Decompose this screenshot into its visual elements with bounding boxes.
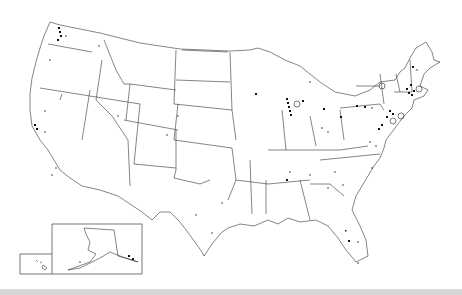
marker xyxy=(334,171,336,173)
marker xyxy=(177,115,179,117)
bottom-band xyxy=(0,289,462,295)
marker xyxy=(410,84,412,86)
marker xyxy=(79,261,81,263)
marker xyxy=(342,184,344,186)
marker xyxy=(348,240,350,242)
marker xyxy=(49,59,51,61)
marker xyxy=(60,35,62,37)
marker xyxy=(98,45,100,47)
marker xyxy=(51,174,53,176)
marker xyxy=(416,69,418,71)
marker xyxy=(413,90,415,92)
marker xyxy=(132,258,134,260)
marker xyxy=(58,27,60,29)
marker xyxy=(357,241,359,243)
marker xyxy=(286,98,288,100)
marker xyxy=(286,179,288,181)
marker xyxy=(323,108,325,110)
marker xyxy=(59,31,61,33)
marker xyxy=(289,171,291,173)
marker xyxy=(255,93,257,95)
marker xyxy=(44,110,46,112)
marker xyxy=(371,167,373,169)
marker xyxy=(381,124,383,126)
marker xyxy=(371,107,373,109)
marker xyxy=(287,102,289,104)
marker xyxy=(357,262,359,264)
marker xyxy=(166,134,168,136)
marker xyxy=(44,131,46,133)
us-map xyxy=(0,0,462,289)
marker xyxy=(375,145,377,147)
marker xyxy=(340,116,342,118)
marker xyxy=(36,128,38,130)
marker xyxy=(309,81,311,83)
marker xyxy=(195,214,197,216)
marker xyxy=(55,167,57,169)
alaska-hawaii-inset xyxy=(20,224,142,274)
marker xyxy=(369,141,371,143)
marker xyxy=(356,105,358,107)
marker xyxy=(406,88,408,90)
marker xyxy=(321,127,323,129)
marker xyxy=(211,232,213,234)
marker xyxy=(65,35,67,37)
marker xyxy=(290,114,292,116)
marker xyxy=(221,202,223,204)
marker xyxy=(412,66,414,68)
marker xyxy=(364,106,366,108)
marker xyxy=(386,116,388,118)
marker xyxy=(302,100,304,102)
marker xyxy=(57,39,59,41)
marker xyxy=(411,94,413,96)
marker xyxy=(289,110,291,112)
marker xyxy=(128,255,130,257)
marker xyxy=(408,92,410,94)
marker xyxy=(345,230,347,232)
marker xyxy=(389,110,391,112)
marker xyxy=(309,174,311,176)
marker xyxy=(34,124,36,126)
marker xyxy=(117,115,119,117)
marker xyxy=(327,187,329,189)
marker xyxy=(392,113,394,115)
marker xyxy=(378,128,380,130)
marker xyxy=(288,106,290,108)
marker xyxy=(327,131,329,133)
